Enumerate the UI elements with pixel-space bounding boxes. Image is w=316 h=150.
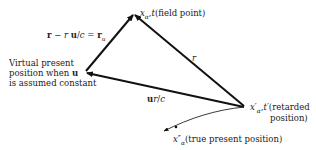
true-present-dot	[175, 126, 178, 129]
diagram-canvas: xα,t(field point) r − r u/c = ru r Virtu…	[0, 0, 316, 150]
virtual-present-label-line1: Virtual present	[9, 58, 74, 68]
r-minus-ru-label: r − r u/c = ru	[47, 30, 106, 44]
virtual-present-label-line2: position when u	[9, 68, 78, 78]
vector-ur-over-c	[87, 73, 244, 107]
vector-r	[135, 15, 244, 106]
r-label: r	[192, 53, 196, 63]
ur-over-c-label: ur/c	[147, 94, 165, 104]
virtual-present-label-line3: is assumed constant	[9, 78, 96, 88]
field-point-label: xα,t(field point)	[140, 8, 205, 22]
true-present-position-label: x″α(true present position)	[173, 134, 282, 148]
retarded-position-label-line2: position)	[270, 113, 308, 123]
